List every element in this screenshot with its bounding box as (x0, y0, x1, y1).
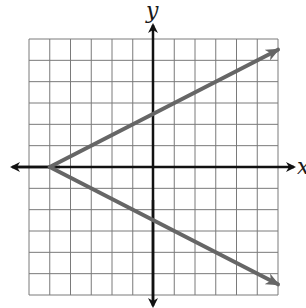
x-axis-label: x (297, 154, 306, 179)
coordinate-plane: y x (0, 0, 306, 308)
upper-ray (50, 50, 278, 167)
y-axis-label: y (145, 0, 159, 23)
lower-ray (50, 167, 278, 284)
